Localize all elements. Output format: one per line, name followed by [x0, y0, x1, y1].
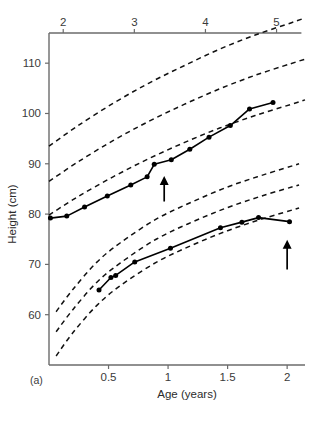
- data-line-lower-child-growth: [99, 218, 290, 290]
- reference-curve-upper-centile-high: [49, 18, 305, 146]
- left-axis-tick-label: 70: [28, 258, 41, 270]
- data-point: [48, 216, 53, 221]
- data-point: [239, 220, 244, 225]
- left-axis-tick-label: 110: [23, 57, 41, 69]
- bottom-axis-tick-label: 1.5: [220, 371, 236, 383]
- data-point: [145, 174, 150, 179]
- arrow-upper: [161, 178, 167, 202]
- data-point: [82, 205, 87, 210]
- growth-chart-figure: 23450.511.5260708090100110Height (cm)Age…: [0, 0, 321, 421]
- data-point: [207, 135, 212, 140]
- data-point: [256, 215, 261, 220]
- top-axis-tick-label: 3: [131, 16, 137, 28]
- bottom-axis-tick-label: 0.5: [101, 371, 117, 383]
- data-point: [168, 246, 173, 251]
- bottom-axis-tick-label: 2: [284, 371, 290, 383]
- data-point: [108, 275, 113, 280]
- arrow-head: [284, 242, 290, 248]
- y-axis-title: Height (cm): [6, 184, 18, 244]
- top-axis-tick-label: 4: [202, 16, 209, 28]
- left-axis-tick-label: 60: [28, 309, 41, 321]
- top-axis-tick-label: 2: [60, 16, 66, 28]
- top-axis-tick-label: 5: [273, 16, 279, 28]
- reference-curve-lower-centile-low: [56, 208, 299, 356]
- panel-label: (a): [30, 374, 43, 386]
- x-axis-title: Age (years): [157, 388, 217, 400]
- data-line-upper-child-growth: [50, 102, 273, 218]
- data-point: [64, 214, 69, 219]
- data-point: [287, 219, 292, 224]
- arrow-head: [161, 178, 167, 184]
- data-point: [97, 288, 102, 293]
- data-point: [132, 259, 137, 264]
- data-point: [113, 273, 118, 278]
- arrow-lower: [284, 242, 290, 270]
- data-point: [228, 123, 233, 128]
- left-axis-tick-label: 80: [28, 208, 41, 220]
- data-point: [271, 100, 276, 105]
- data-point: [169, 157, 174, 162]
- chart-canvas: 23450.511.5260708090100110Height (cm)Age…: [0, 0, 321, 421]
- data-point: [105, 193, 110, 198]
- left-axis-tick-label: 100: [22, 107, 41, 119]
- data-point: [187, 147, 192, 152]
- data-point: [247, 106, 252, 111]
- left-axis-tick-label: 90: [28, 158, 41, 170]
- data-point: [128, 182, 133, 187]
- bottom-axis-tick-label: 1: [165, 371, 171, 383]
- reference-curve-lower-centile-high: [56, 164, 299, 312]
- data-point: [218, 225, 223, 230]
- data-point: [152, 162, 157, 167]
- reference-curve-upper-centile-low: [49, 100, 305, 215]
